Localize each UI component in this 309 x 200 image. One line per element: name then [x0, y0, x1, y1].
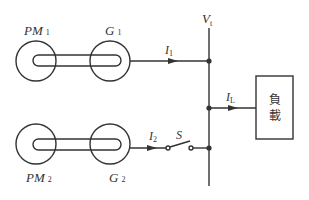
- bus-label: Vt: [202, 11, 213, 28]
- node-dot-1: [206, 58, 211, 63]
- generator-g2-circle: [90, 124, 130, 164]
- arrow-i1-icon: [168, 58, 178, 64]
- i1-label: I1: [164, 43, 173, 58]
- il-label: IL: [225, 90, 235, 105]
- switch-label: S: [176, 128, 182, 142]
- arrow-il-icon: [228, 105, 238, 111]
- arrow-i2-icon: [147, 145, 157, 151]
- shaft-2: [33, 139, 121, 150]
- pm1-label: PM1: [23, 23, 50, 38]
- g1-label: G1: [105, 23, 121, 38]
- motor-pm1-circle: [16, 41, 56, 81]
- generator-g1-circle: [90, 41, 130, 81]
- load-label-line2: 載: [269, 109, 281, 123]
- switch-contact-left: [166, 146, 170, 150]
- circuit-diagram: Vt PM1 G1 I1 PM2 G2 I2 S IL 負 載: [0, 0, 309, 200]
- pm2-label: PM2: [25, 170, 52, 185]
- node-dot-2: [206, 145, 211, 150]
- switch-contact-right: [189, 146, 193, 150]
- motor-pm2-circle: [16, 124, 56, 164]
- node-dot-l: [206, 105, 211, 110]
- load-label-line1: 負: [269, 93, 281, 107]
- shaft-1: [33, 55, 121, 66]
- g2-label: G2: [109, 170, 125, 185]
- load-box: [256, 76, 293, 139]
- i2-label: I2: [148, 129, 157, 144]
